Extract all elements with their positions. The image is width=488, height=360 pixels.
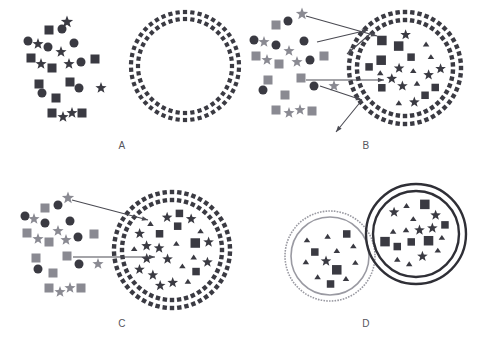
ring-dot	[204, 105, 210, 111]
free-particle-square	[35, 80, 44, 89]
ring-dot	[450, 93, 456, 99]
ring-dot	[175, 110, 180, 115]
ring-dot	[120, 278, 126, 284]
ring-dot	[347, 58, 352, 63]
ring-dot	[224, 229, 230, 235]
free-particle-square	[264, 76, 273, 85]
cargo-square	[394, 243, 402, 251]
ring-dot	[217, 233, 222, 238]
cargo-square	[343, 230, 351, 238]
ring-dot	[435, 100, 441, 106]
ring-dot	[216, 21, 222, 27]
ring-dot	[190, 117, 195, 122]
cargo-star	[134, 228, 145, 238]
free-particle-star	[261, 54, 272, 65]
panel-c-graphic	[0, 178, 244, 358]
cargo-star	[154, 243, 165, 253]
ring-dot	[190, 17, 195, 22]
free-particle-star	[62, 192, 74, 204]
free-particle-star	[32, 233, 43, 244]
ring-dot	[388, 19, 393, 24]
ring-dot	[381, 108, 387, 114]
free-particle-square	[78, 109, 87, 118]
cargo-star	[167, 277, 178, 287]
ring-dot	[197, 19, 202, 24]
free-particle-star	[291, 56, 302, 67]
free-particle-square	[32, 254, 41, 263]
ring-dot	[220, 248, 224, 252]
ring-dot	[429, 105, 435, 111]
panel-d: D	[244, 178, 488, 358]
ring-dot	[117, 272, 123, 278]
ring-dot	[149, 96, 155, 102]
ring-dot	[190, 193, 196, 199]
ring-dot	[456, 80, 461, 85]
ring-dot	[215, 226, 221, 232]
ring-dot	[424, 13, 430, 19]
ring-dot	[381, 117, 387, 123]
cargo-triangle	[190, 255, 197, 260]
free-particle-circle	[66, 217, 75, 226]
ring-dot	[456, 51, 461, 56]
ring-dot	[183, 111, 187, 115]
cargo-star	[397, 80, 408, 90]
free-particle-circle	[38, 89, 47, 98]
ring-dot	[136, 64, 140, 68]
ring-dot	[219, 255, 224, 260]
ring-dot	[143, 26, 149, 32]
ring-dot	[388, 119, 393, 124]
ring-dot	[134, 38, 140, 44]
ring-dot	[209, 205, 215, 211]
cargo-square	[441, 221, 449, 229]
ring-dot	[230, 38, 236, 44]
cargo-square	[431, 84, 439, 92]
ring-dot	[129, 289, 135, 295]
ring-dot	[141, 298, 147, 304]
free-particle-star	[60, 234, 71, 245]
ring-dot	[444, 41, 450, 47]
ring-dot	[168, 11, 173, 16]
ring-dot	[395, 18, 400, 23]
ring-dot	[444, 89, 450, 95]
ring-dot	[374, 113, 380, 119]
ring-dot	[190, 110, 195, 115]
ring-dot	[227, 78, 232, 83]
free-particle-square	[48, 109, 57, 118]
ring-dot	[177, 198, 182, 203]
ring-dot	[235, 53, 240, 58]
ring-dot	[211, 274, 217, 280]
ring-dot	[423, 108, 429, 114]
ring-dot	[154, 25, 160, 31]
ring-dot	[196, 205, 202, 211]
ring-dot	[226, 32, 232, 38]
vesicle-outer-ring	[347, 10, 463, 126]
ring-dot	[138, 32, 144, 38]
panel-b: B	[244, 0, 488, 180]
ring-dot	[410, 113, 415, 118]
ring-dot	[224, 85, 230, 91]
ring-dot	[130, 75, 135, 80]
free-particle-circle	[284, 17, 293, 26]
cargo-triangle	[185, 279, 192, 284]
free-particle-circle	[250, 36, 259, 45]
ring-dot	[143, 100, 149, 106]
cargo-star	[134, 264, 145, 274]
ring-dot	[204, 113, 210, 119]
ring-dot	[210, 17, 216, 23]
free-particle-square	[23, 229, 32, 238]
ring-dot	[451, 62, 456, 67]
ring-dot	[435, 30, 441, 36]
ring-dot	[197, 115, 202, 120]
ring-dot	[120, 240, 125, 245]
free-particle-circle	[259, 86, 268, 95]
cargo-star	[162, 254, 173, 264]
ring-dot	[220, 35, 226, 41]
ring-dot	[417, 119, 422, 124]
cargo-star	[141, 240, 152, 250]
vesicle-outer-ring	[112, 190, 232, 310]
cargo-square	[380, 237, 390, 247]
cargo-star	[202, 257, 213, 267]
arrow-line	[306, 16, 377, 36]
ring-dot	[237, 67, 241, 71]
transport-arrow-6	[336, 100, 362, 132]
